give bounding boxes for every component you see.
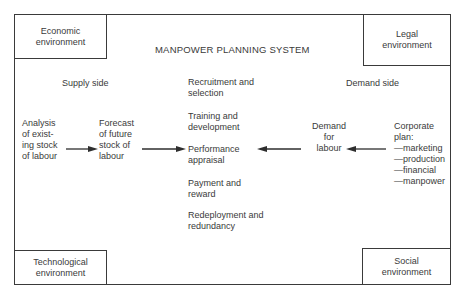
social-environment-label: Social environment <box>382 256 432 278</box>
diagram-title: MANPOWER PLANNING SYSTEM <box>155 44 310 55</box>
arrow-left-icon <box>346 145 386 153</box>
arrow-left-icon <box>257 145 301 153</box>
technological-environment-label: Technological environment <box>33 257 88 279</box>
activity-recruitment: Recruitment and selection <box>188 77 254 99</box>
legal-environment-box: Legal environment <box>363 14 451 66</box>
economic-environment-label: Economic environment <box>36 26 86 48</box>
economic-environment-box: Economic environment <box>14 14 107 59</box>
activity-redeployment: Redeployment and redundancy <box>188 210 264 232</box>
arrow-right-icon <box>66 145 98 153</box>
corporate-plan-node: Corporate plan: —marketing —production —… <box>394 121 445 187</box>
analysis-existing-stock-node: Analysis of exist- ing stock of labour <box>22 118 58 162</box>
demand-for-labour-node: Demand for labour <box>309 121 349 154</box>
arrow-right-icon <box>142 145 186 153</box>
social-environment-box: Social environment <box>362 248 451 285</box>
supply-side-label: Supply side <box>62 78 109 88</box>
legal-environment-label: Legal environment <box>382 29 432 51</box>
activity-performance-appraisal: Performance appraisal <box>188 144 240 166</box>
activity-training: Training and development <box>188 111 240 133</box>
demand-side-label: Demand side <box>346 78 399 88</box>
activity-payment: Payment and reward <box>188 178 241 200</box>
forecast-future-stock-node: Forecast of future stock of labour <box>99 118 134 162</box>
technological-environment-box: Technological environment <box>14 250 107 285</box>
